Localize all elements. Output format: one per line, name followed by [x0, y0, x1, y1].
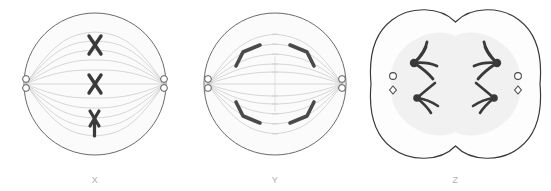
cell-panel-x: X [0, 0, 190, 191]
cell-diagram-z [360, 0, 551, 168]
panel-label-x: X [0, 174, 190, 186]
astral-rays-x-left [7, 60, 26, 108]
cell-diagram-x [0, 0, 190, 168]
cell-panel-y: Y [180, 0, 370, 191]
cell-division-figure: X [0, 0, 551, 191]
cell-diagram-y [180, 0, 370, 168]
cytoplasm-region-z [391, 32, 520, 135]
panel-label-z: Z [360, 174, 551, 186]
astral-rays-y-left [189, 60, 208, 108]
cell-panel-z: Z [360, 0, 551, 191]
astral-rays-y-right [342, 60, 361, 108]
panel-label-y: Y [180, 174, 370, 186]
